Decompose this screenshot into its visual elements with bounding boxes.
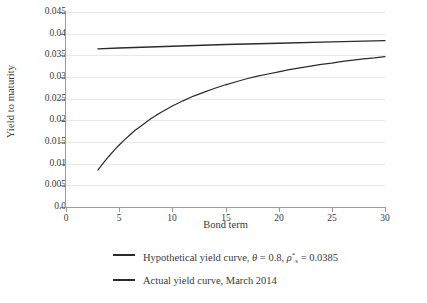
curve-group [66, 12, 385, 207]
plot-block: Yield to maturity 0.00.0050.010.0150.020… [0, 0, 427, 240]
x-tick-mark [119, 207, 120, 212]
x-axis-title: Bond term [66, 219, 385, 230]
actual-yield-curve-line [98, 41, 385, 49]
x-tick-mark [279, 207, 280, 212]
legend-text-prefix: Hypothetical yield curve, [143, 252, 252, 263]
curves-svg [66, 12, 385, 207]
chart-legend: Hypothetical yield curve, θ = 0.8, ρ*s =… [0, 243, 427, 293]
legend-item-actual: Actual yield curve, March 2014 [0, 268, 427, 293]
yield-curve-figure: Yield to maturity 0.00.0050.010.0150.020… [0, 0, 427, 303]
theta-value: = 0.8, [257, 252, 287, 263]
x-tick-mark [385, 207, 386, 212]
x-tick-mark [172, 207, 173, 212]
x-tick-mark [66, 207, 67, 212]
legend-swatch-actual [113, 279, 135, 281]
hypothetical-yield-curve-line [98, 57, 385, 171]
legend-label-actual: Actual yield curve, March 2014 [143, 268, 277, 293]
rho-value: = 0.0385 [298, 252, 338, 263]
legend-item-hypothetical: Hypothetical yield curve, θ = 0.8, ρ*s =… [0, 243, 427, 268]
x-tick-mark [226, 207, 227, 212]
x-tick-mark [332, 207, 333, 212]
legend-swatch-hypothetical [113, 254, 135, 256]
